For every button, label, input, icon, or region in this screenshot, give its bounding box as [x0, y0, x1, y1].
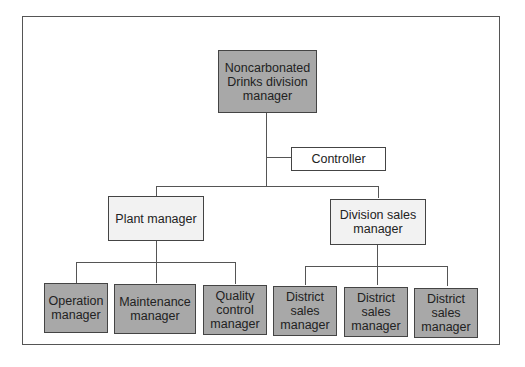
connector-sales-down — [377, 245, 378, 285]
connector-quality-drop — [235, 262, 236, 284]
connector-top-vertical — [266, 113, 267, 187]
connector-plant-children-horizontal — [76, 262, 235, 263]
node-label: District sales manager — [347, 291, 405, 333]
connector-district3-drop — [447, 266, 448, 286]
node-label: Noncarbonated Drinks division manager — [221, 61, 314, 103]
node-quality-control-manager: Quality control manager — [203, 285, 267, 335]
connector-operation-drop — [76, 262, 77, 283]
node-plant-manager: Plant manager — [108, 196, 204, 241]
node-maintenance-manager: Maintenance manager — [114, 284, 196, 334]
connector-controller — [266, 157, 291, 158]
node-label: Maintenance manager — [117, 295, 193, 323]
node-label: Controller — [311, 152, 365, 166]
connector-district1-drop — [305, 266, 306, 285]
node-operation-manager: Operation manager — [44, 283, 108, 333]
connector-sales-children-horizontal — [305, 266, 447, 267]
connector-level2-horizontal — [156, 186, 379, 187]
node-label: District sales manager — [417, 292, 475, 334]
node-division-sales-manager: Division sales manager — [330, 199, 426, 245]
node-district-sales-manager-2: District sales manager — [344, 287, 408, 337]
node-district-sales-manager-1: District sales manager — [273, 286, 337, 336]
node-controller: Controller — [291, 147, 386, 171]
node-label: Plant manager — [115, 212, 196, 226]
node-label: Quality control manager — [206, 289, 264, 331]
node-district-sales-manager-3: District sales manager — [414, 288, 478, 338]
node-label: District sales manager — [276, 290, 334, 332]
node-label: Division sales manager — [333, 208, 423, 236]
node-division-manager: Noncarbonated Drinks division manager — [218, 50, 317, 113]
connector-sales-drop — [378, 186, 379, 198]
node-label: Operation manager — [47, 294, 105, 322]
